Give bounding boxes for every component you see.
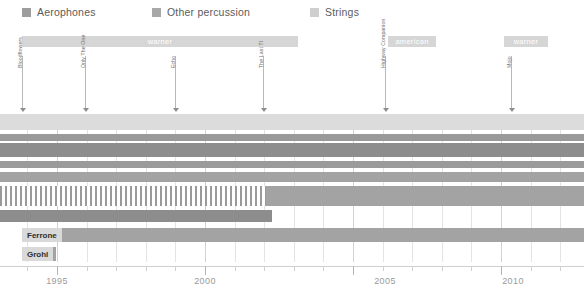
axis-tick-minor [412, 266, 413, 271]
chart-row [0, 172, 584, 182]
legend-swatch-icon [310, 8, 319, 17]
chart-row [0, 186, 584, 206]
axis-tick-major [57, 266, 58, 275]
axis-tick-major [501, 266, 502, 275]
timeline-bar-other-percussion-b[interactable] [0, 172, 584, 182]
event-label: The Last TI [258, 41, 264, 68]
timeline-bar-percussion-run[interactable] [0, 210, 272, 222]
legend-swatch-icon [22, 8, 31, 17]
event-label: Mojo [506, 56, 512, 68]
event-label: Bloodflowers [17, 37, 23, 68]
timeline-bar-strings-band[interactable] [0, 114, 584, 130]
legend-label: Aerophones [37, 6, 96, 18]
axis-tick-minor [383, 266, 384, 271]
axis-tick-minor [294, 266, 295, 271]
era-band-warner[interactable]: warner [22, 36, 298, 47]
axis-tick-minor [531, 266, 532, 271]
chart-row [0, 134, 584, 141]
legend-item-strings[interactable]: Strings [310, 6, 359, 18]
era-band-label: american [388, 36, 436, 47]
arrow-down-icon [173, 108, 179, 112]
event-marker-only-the-one[interactable]: Only The One [85, 56, 86, 112]
event-label: Highway Companion [380, 18, 386, 68]
event-label: Echo [170, 56, 176, 68]
chart-row: Ferrone [0, 228, 584, 242]
era-band-label: warner [504, 36, 548, 47]
row-label-ferrone: Ferrone [22, 228, 62, 242]
arrow-down-icon [83, 108, 89, 112]
legend-swatch-icon [152, 8, 161, 17]
legend-label: Strings [325, 6, 359, 18]
timeline-bar-aerophones-a[interactable] [0, 134, 584, 141]
era-band-warner[interactable]: warner [504, 36, 548, 47]
axis-tick-minor [87, 266, 88, 271]
axis-tick-minor [264, 266, 265, 271]
legend-item-aerophones[interactable]: Aerophones [22, 6, 96, 18]
axis-tick-minor [560, 266, 561, 271]
axis-tick-minor [116, 266, 117, 271]
arrow-down-icon [261, 108, 267, 112]
event-marker-the-last-ti[interactable]: The Last TI [263, 56, 264, 112]
era-band-american[interactable]: american [388, 36, 436, 47]
event-marker-bloodflowers[interactable]: Bloodflowers [22, 56, 23, 112]
row-label-grohl: Grohl [22, 247, 53, 261]
chart-row [0, 210, 584, 222]
chart-row [0, 114, 584, 130]
timeline-bar-other-percussion-a[interactable] [0, 143, 584, 157]
axis-year-label: 2000 [194, 276, 216, 286]
arrow-down-icon [383, 108, 389, 112]
axis-tick-minor [146, 266, 147, 271]
event-marker-highway-companion[interactable]: Highway Companion [385, 56, 386, 112]
axis-year-label: 2010 [502, 276, 524, 286]
axis-tick-minor [442, 266, 443, 271]
timeline-chart: AerophonesOther percussionStrings warner… [0, 0, 584, 295]
era-band-label: warner [22, 36, 298, 47]
legend-label: Other percussion [167, 6, 250, 18]
arrow-down-icon [20, 108, 26, 112]
chart-row [0, 143, 584, 157]
axis-tick-minor [235, 266, 236, 271]
chart-row: Grohl [0, 247, 584, 261]
plot-area: FerroneGrohl [0, 114, 584, 262]
timeline-bar-hatched-tail[interactable] [266, 186, 584, 206]
chart-legend: AerophonesOther percussionStrings [0, 0, 584, 24]
axis-tick-minor [175, 266, 176, 271]
event-marker-echo[interactable]: Echo [175, 56, 176, 112]
axis-tick-major [353, 266, 354, 275]
arrow-down-icon [509, 108, 515, 112]
axis-tick-minor [471, 266, 472, 271]
axis-year-label: 2005 [374, 276, 396, 286]
timeline-bar-aerophones-b[interactable] [0, 161, 584, 168]
event-marker-mojo[interactable]: Mojo [511, 56, 512, 112]
axis-tick-major [205, 266, 206, 275]
axis-tick-minor [323, 266, 324, 271]
axis-year-label: 1995 [46, 276, 68, 286]
timeline-bar-ferrone[interactable] [22, 228, 584, 242]
chart-row [0, 161, 584, 168]
event-label: Only The One [80, 35, 86, 68]
legend-item-other-percussion[interactable]: Other percussion [152, 6, 250, 18]
axis-tick-minor [27, 266, 28, 271]
